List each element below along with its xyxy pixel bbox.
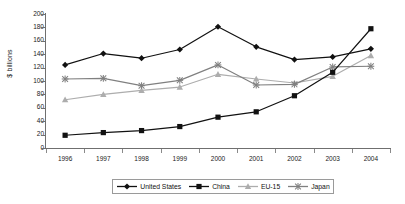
x-axis-tick-mark [46,149,47,153]
diamond-marker [253,44,259,50]
legend-item-japan[interactable]: Japan [287,182,330,191]
x-axis-tick-mark [199,149,200,153]
cross-marker [367,63,374,70]
chart-legend: United StatesChinaEU-15Japan [112,179,334,194]
x-axis-tick-mark [122,149,123,153]
square-marker [177,124,182,129]
square-marker [292,93,297,98]
plot-series-layer [0,0,405,204]
x-axis-tick-label: 2002 [287,155,301,162]
cross-marker [253,82,260,89]
y-axis-tick-mark [41,54,45,55]
x-axis-tick-label: 2001 [249,155,263,162]
y-axis-tick-mark [41,148,45,149]
y-axis-tick-mark [41,68,45,69]
square-marker [254,109,259,114]
y-axis-tick-mark [41,14,45,15]
x-axis-tick-mark [314,149,315,153]
legend-item-eu-15[interactable]: EU-15 [237,182,280,191]
cross-marker [291,81,298,88]
x-axis-tick-mark [352,149,353,153]
cross-marker [138,82,145,89]
x-axis-tick-mark [390,149,391,153]
series-eu-15 [62,52,374,102]
square-marker [188,182,210,191]
x-axis-tick-label: 1998 [134,155,148,162]
square-marker [215,115,220,120]
x-axis-tick-label: 1997 [96,155,110,162]
x-axis-tick-label: 2003 [325,155,339,162]
diamond-marker [330,54,336,60]
triangle-marker [237,182,259,191]
cross-marker [100,75,107,82]
cross-marker [287,182,309,191]
square-marker [197,184,202,189]
square-marker [101,130,106,135]
y-axis-tick-mark [41,121,45,122]
diamond-marker [100,50,106,56]
square-marker [63,133,68,138]
series-united-states [62,24,374,68]
diamond-marker [62,62,68,68]
legend-item-united-states[interactable]: United States [116,182,181,191]
diamond-marker [116,182,138,191]
x-axis-tick-mark [84,149,85,153]
y-axis-tick-mark [41,108,45,109]
legend-label: Japan [311,183,330,190]
x-axis-tick-mark [275,149,276,153]
x-axis-tick-label: 2000 [211,155,225,162]
diamond-marker [368,46,374,52]
diamond-marker [177,46,183,52]
y-axis-tick-mark [41,27,45,28]
series-china [63,26,374,138]
square-marker [368,26,373,31]
cross-marker [176,77,183,84]
diamond-marker [124,183,130,189]
x-axis-tick-mark [161,149,162,153]
y-axis-tick-mark [41,81,45,82]
cross-marker [62,76,69,83]
x-axis-tick-mark [237,149,238,153]
y-axis-tick-mark [41,41,45,42]
x-axis-tick-label: 2004 [364,155,378,162]
x-axis-tick-label: 1996 [58,155,72,162]
cross-marker [215,62,222,69]
triangle-marker [368,52,374,58]
square-marker [139,128,144,133]
legend-item-china[interactable]: China [188,182,230,191]
x-axis-tick-labels: 199619971998199920002001200220032004 [0,155,405,167]
line-chart: $ billions 200180160140120100806040200 1… [0,0,405,204]
square-marker [330,70,335,75]
legend-label: EU-15 [261,183,280,190]
series-line [65,27,371,65]
legend-label: United States [140,183,181,190]
x-axis-tick-label: 1999 [173,155,187,162]
cross-marker [295,183,302,190]
y-axis-tick-mark [41,135,45,136]
y-axis-tick-mark [41,94,45,95]
legend-label: China [212,183,230,190]
diamond-marker [215,24,221,30]
diamond-marker [138,55,144,61]
diamond-marker [291,56,297,62]
